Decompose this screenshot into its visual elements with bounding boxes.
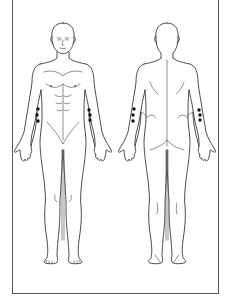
front-head — [52, 23, 74, 54]
back-right-forearm-markers — [197, 108, 201, 121]
marker-dot — [88, 113, 91, 116]
body-diagram — [0, 0, 233, 297]
back-head — [156, 23, 178, 58]
back-figure — [119, 23, 216, 264]
marker-dot — [87, 108, 90, 111]
front-face — [57, 38, 69, 49]
marker-dot — [131, 113, 134, 116]
marker-dot — [198, 118, 201, 121]
marker-dot — [35, 113, 38, 116]
front-right-forearm-markers — [35, 107, 39, 122]
marker-dot — [36, 119, 39, 122]
marker-dot — [131, 119, 134, 122]
front-figure — [15, 23, 112, 264]
marker-dot — [198, 113, 201, 116]
front-left-forearm-markers — [87, 108, 91, 121]
marker-dot — [36, 107, 39, 110]
marker-dot — [88, 118, 91, 121]
marker-dot — [132, 107, 135, 110]
marker-dot — [197, 108, 200, 111]
